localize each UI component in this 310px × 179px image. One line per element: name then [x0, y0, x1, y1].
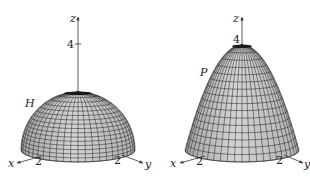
y-tick-label: 2 — [276, 154, 283, 167]
y-axis-label: y — [303, 158, 310, 171]
paraboloid-plot: z 4 P x 2 y 2 — [170, 12, 310, 171]
x-tick-label: 2 — [196, 155, 203, 168]
paraboloid-surface — [185, 44, 299, 162]
y-axis-label: y — [144, 158, 152, 171]
z-axis-label: z — [232, 12, 239, 25]
y-axis-line — [122, 155, 143, 163]
z-tick-label: 4 — [233, 33, 240, 46]
x-tick-label: 2 — [35, 155, 42, 168]
surfaces-figure: z 4 H x 2 y 2 z 4 P x 2 y 2 — [0, 0, 310, 179]
surface-label-h: H — [24, 97, 35, 110]
z-axis-label: z — [69, 12, 76, 25]
hemisphere-plot: z 4 H x 2 y 2 — [8, 12, 152, 171]
x-axis-label: x — [8, 157, 15, 170]
surface-label-p: P — [199, 66, 208, 79]
y-tick-label: 2 — [114, 154, 121, 167]
x-axis-label: x — [170, 157, 177, 170]
z-tick-label: 4 — [67, 38, 74, 51]
y-axis-line — [284, 155, 303, 163]
hemisphere-surface — [21, 91, 135, 162]
